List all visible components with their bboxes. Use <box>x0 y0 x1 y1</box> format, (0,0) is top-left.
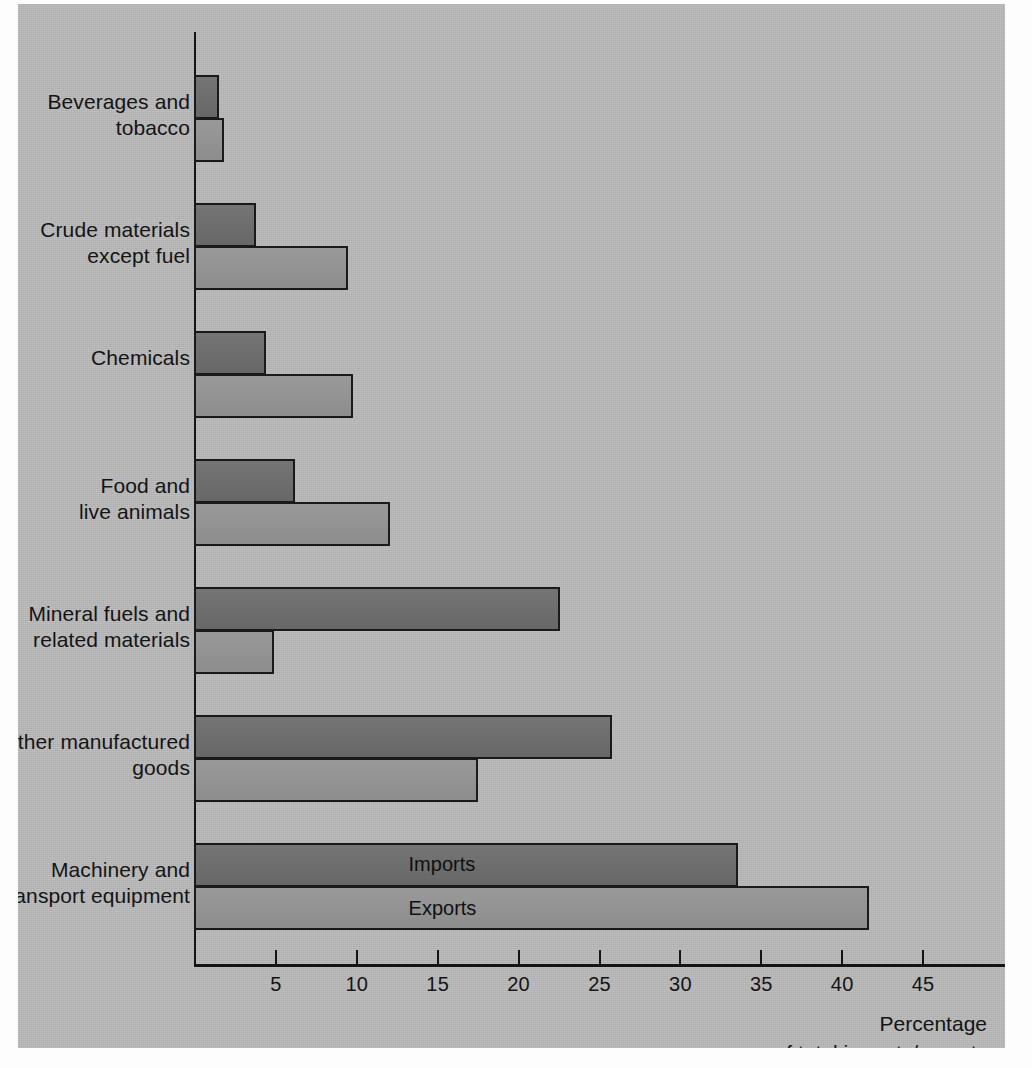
imports-series-label: Imports <box>409 853 476 876</box>
x-axis-tick <box>437 950 439 964</box>
bar-imports <box>194 203 256 247</box>
bar-imports <box>194 331 266 375</box>
x-axis-tick <box>841 950 843 964</box>
x-axis-tick <box>599 950 601 964</box>
x-axis-tick <box>356 950 358 964</box>
category-label: Mineral fuels and related materials <box>18 601 190 653</box>
bar-imports <box>194 459 295 503</box>
bar-exports <box>194 758 478 802</box>
category-label: Chemicals <box>18 345 190 371</box>
x-axis-tick-label: 45 <box>901 973 945 996</box>
x-axis-tick <box>679 950 681 964</box>
bar-imports <box>194 587 560 631</box>
bar-exports <box>194 374 353 418</box>
category-label: Other manufactured goods <box>18 729 190 781</box>
x-axis-tick-label: 10 <box>335 973 379 996</box>
bar-exports <box>194 502 390 546</box>
x-axis-line <box>194 964 1005 967</box>
chart-panel: 51015202530354045Beverages and tobaccoCr… <box>18 4 1005 1048</box>
bar-exports <box>194 246 348 290</box>
bar-imports <box>194 75 219 119</box>
bar-exports <box>194 886 869 930</box>
x-axis-tick-label: 20 <box>497 973 541 996</box>
figure: 51015202530354045Beverages and tobaccoCr… <box>0 0 1032 1068</box>
bar-exports <box>194 630 274 674</box>
x-axis-tick-label: 30 <box>658 973 702 996</box>
plot-area: 51015202530354045Beverages and tobaccoCr… <box>18 4 1005 1048</box>
x-axis-tick <box>922 950 924 964</box>
bar-exports <box>194 118 224 162</box>
x-axis-tick-label: 5 <box>254 973 298 996</box>
x-axis-tick <box>518 950 520 964</box>
x-axis-caption: Percentage of total imports/exports <box>567 1009 987 1048</box>
x-axis-tick-label: 15 <box>416 973 460 996</box>
category-label: Beverages and tobacco <box>18 89 190 141</box>
category-label: Crude materials except fuel <box>18 217 190 269</box>
x-axis-tick-label: 35 <box>739 973 783 996</box>
exports-series-label: Exports <box>409 897 477 920</box>
category-label: Food and live animals <box>18 473 190 525</box>
category-label: Machinery and transport equipment <box>18 857 190 909</box>
bar-imports <box>194 715 612 759</box>
x-axis-tick <box>275 950 277 964</box>
x-axis-tick <box>760 950 762 964</box>
x-axis-tick-label: 40 <box>820 973 864 996</box>
x-axis-tick-label: 25 <box>578 973 622 996</box>
